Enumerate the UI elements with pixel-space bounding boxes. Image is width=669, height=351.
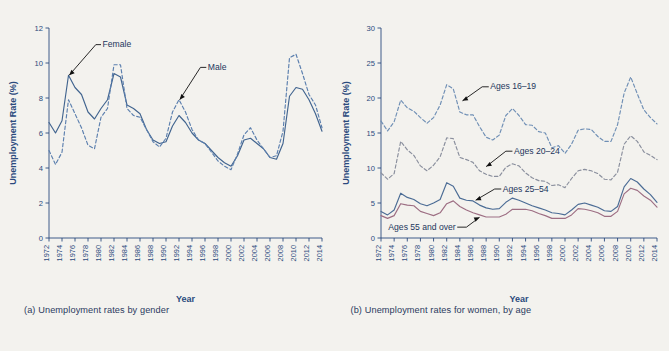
y-tick-label: 4 (39, 164, 43, 173)
x-tick-label: 2004 (250, 245, 259, 261)
x-tick-label: 1988 (479, 245, 488, 261)
series-line (49, 54, 322, 170)
y-tick-label: 5 (370, 199, 374, 208)
y-tick-label: 30 (366, 24, 374, 33)
x-tick-label: 2002 (237, 245, 246, 261)
series-label: Female (103, 39, 132, 49)
panel-b-caption: (b) Unemployment rates for women, by age (351, 305, 532, 315)
y-tick-label: 0 (370, 234, 374, 243)
series-annotation: Ages 55 and over (388, 217, 479, 231)
x-tick-label: 1978 (413, 245, 422, 261)
x-tick-label: 1994 (185, 245, 194, 261)
x-tick-label: 1994 (518, 245, 527, 261)
x-tick-label: 1980 (94, 245, 103, 261)
y-tick-label: 8 (39, 94, 43, 103)
x-tick-label: 1998 (211, 245, 220, 261)
x-tick-label: 1992 (505, 245, 514, 261)
x-tick-label: 2000 (558, 245, 567, 261)
x-tick-label: 1972 (42, 245, 51, 261)
x-tick-label: 1978 (81, 245, 90, 261)
x-tick-label: 2004 (584, 245, 593, 261)
x-tick-label: 1974 (387, 245, 396, 261)
series-label: Male (208, 62, 227, 72)
x-tick-label: 2012 (636, 245, 645, 261)
series-label: Ages 25–54 (502, 184, 548, 194)
chart-b-svg: 0510152025301972197419761978198019821984… (335, 0, 669, 330)
series-line (49, 74, 322, 167)
x-axis-title: Year (176, 294, 196, 304)
series-line (381, 136, 657, 188)
x-tick-label: 1972 (374, 245, 383, 261)
x-tick-label: 2002 (571, 245, 580, 261)
x-tick-label: 2006 (597, 245, 606, 261)
x-tick-label: 1986 (466, 245, 475, 261)
y-axis-title: Unemployment Rate (%) (341, 81, 351, 185)
x-tick-label: 1986 (133, 245, 142, 261)
chart-a-svg: 0246810121972197419761978198019821984198… (0, 0, 334, 330)
x-tick-label: 1974 (55, 245, 64, 261)
panel-b-unemployment-women-by-age: 0510152025301972197419761978198019821984… (335, 0, 669, 351)
x-tick-label: 1990 (159, 245, 168, 261)
series-label: Ages 16–19 (490, 81, 536, 91)
figure-panels: 0246810121972197419761978198019821984198… (0, 0, 669, 351)
y-tick-label: 12 (35, 24, 43, 33)
y-tick-label: 15 (366, 129, 374, 138)
series-annotation: Ages 16–19 (462, 81, 536, 100)
series-label: Ages 55 and over (388, 222, 456, 232)
panel-a-caption: (a) Unemployment rates by gender (24, 305, 169, 315)
x-tick-label: 1982 (439, 245, 448, 261)
x-tick-label: 2010 (289, 245, 298, 261)
x-tick-label: 2000 (224, 245, 233, 261)
series-annotation: Male (180, 62, 227, 100)
x-tick-label: 1988 (146, 245, 155, 261)
y-tick-label: 10 (366, 164, 374, 173)
y-tick-label: 10 (35, 59, 43, 68)
x-tick-label: 1990 (492, 245, 501, 261)
x-tick-label: 2008 (276, 245, 285, 261)
x-tick-label: 2014 (315, 245, 324, 261)
x-tick-label: 2012 (302, 245, 311, 261)
x-tick-label: 1996 (531, 245, 540, 261)
x-tick-label: 1984 (120, 245, 129, 261)
x-tick-label: 1982 (107, 245, 116, 261)
x-tick-label: 2014 (650, 245, 659, 261)
x-tick-label: 1992 (172, 245, 181, 261)
x-tick-label: 1998 (544, 245, 553, 261)
x-tick-label: 1976 (400, 245, 409, 261)
x-tick-label: 1996 (198, 245, 207, 261)
panel-a-unemployment-by-gender: 0246810121972197419761978198019821984198… (0, 0, 335, 351)
y-tick-label: 0 (39, 234, 43, 243)
x-tick-label: 1976 (68, 245, 77, 261)
x-tick-label: 2008 (610, 245, 619, 261)
x-tick-label: 2010 (623, 245, 632, 261)
x-tick-label: 1980 (426, 245, 435, 261)
y-tick-label: 2 (39, 199, 43, 208)
y-axis-title: Unemployment Rate (%) (8, 81, 18, 185)
x-tick-label: 1984 (452, 245, 461, 261)
x-axis-title: Year (509, 294, 529, 304)
series-annotation: Female (69, 39, 131, 75)
y-tick-label: 20 (366, 94, 374, 103)
y-tick-label: 25 (366, 59, 374, 68)
y-tick-label: 6 (39, 129, 43, 138)
series-annotation: Ages 20–24 (486, 146, 560, 167)
series-label: Ages 20–24 (513, 146, 559, 156)
x-tick-label: 2006 (263, 245, 272, 261)
